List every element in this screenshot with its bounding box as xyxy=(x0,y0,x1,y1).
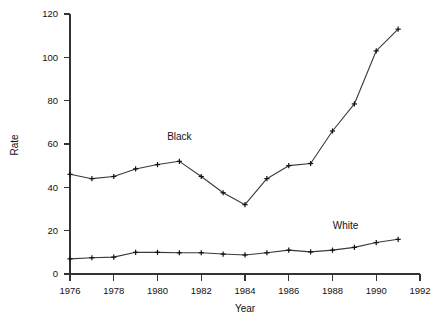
x-tick-label: 1984 xyxy=(234,285,255,296)
x-tick-label: 1992 xyxy=(409,285,430,296)
series-label-black: Black xyxy=(167,131,192,142)
y-tick-label: 100 xyxy=(42,52,58,63)
rate-by-year-line-chart: 020406080100120 Rate 1976197819801982198… xyxy=(0,0,443,324)
x-tick-label: 1988 xyxy=(322,285,343,296)
x-axis-tick-labels: 197619781980198219841986198819901992 xyxy=(59,285,430,296)
y-axis-title: Rate xyxy=(9,134,20,156)
y-tick-label: 60 xyxy=(47,138,58,149)
x-tick-label: 1976 xyxy=(59,285,80,296)
y-tick-label: 120 xyxy=(42,8,58,19)
x-tick-label: 1990 xyxy=(366,285,387,296)
x-tick-label: 1978 xyxy=(103,285,124,296)
y-tick-label: 40 xyxy=(47,182,58,193)
series-label-white: White xyxy=(333,220,359,231)
x-tick-label: 1986 xyxy=(278,285,299,296)
y-tick-label: 0 xyxy=(53,268,58,279)
y-tick-label: 80 xyxy=(47,95,58,106)
x-tick-label: 1982 xyxy=(191,285,212,296)
x-axis-title: Year xyxy=(235,303,256,314)
x-tick-label: 1980 xyxy=(147,285,168,296)
y-tick-label: 20 xyxy=(47,225,58,236)
chart-figure: 020406080100120 Rate 1976197819801982198… xyxy=(0,0,443,324)
